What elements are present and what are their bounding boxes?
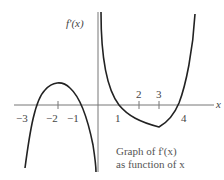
tick-label-2: 2	[136, 88, 142, 100]
caption-line-2: as function of x	[116, 158, 185, 170]
tick-label-m1: −1	[67, 112, 79, 124]
curve-right-branch	[101, 12, 195, 127]
tick-label-3: 3	[156, 88, 162, 100]
tick-label-4: 4	[181, 112, 187, 124]
fprime-graph: f'(x) x −3 −2 −1 1 2 3 4 Graph of f'(x) …	[0, 0, 224, 180]
tick-label-m2: −2	[46, 112, 58, 124]
curve-left-branch	[25, 83, 96, 172]
tick-label-1: 1	[115, 112, 121, 124]
tick-label-m3: −3	[16, 112, 28, 124]
caption-line-1: Graph of f'(x)	[116, 145, 177, 158]
x-axis-label: x	[215, 98, 221, 110]
y-axis-label: f'(x)	[66, 17, 84, 30]
